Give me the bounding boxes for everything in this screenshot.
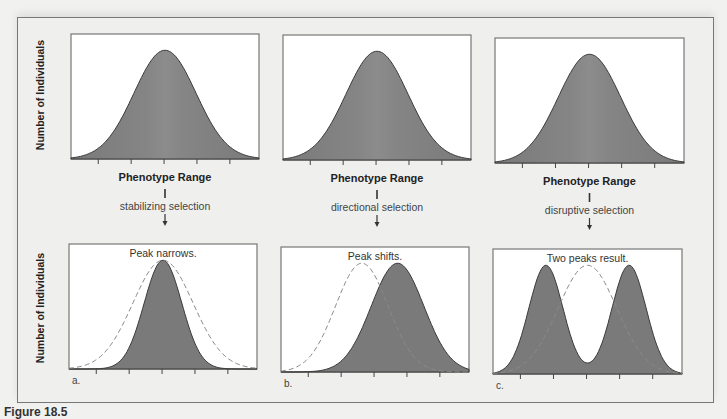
panel-letter: a. [72, 375, 80, 386]
panel-letter: b. [284, 378, 292, 389]
figure-caption: Figure 18.5 [4, 405, 67, 419]
arrow-down-icon [163, 221, 168, 226]
selection-type-label: directional selection [331, 201, 423, 213]
result-annotation: Peak shifts. [348, 250, 402, 262]
result-annotation: Peak narrows. [129, 247, 196, 259]
x-axis-label: Phenotype Range [331, 172, 424, 184]
x-axis-label: Phenotype Range [543, 175, 636, 187]
selection-type-label: disruptive selection [545, 204, 634, 216]
result-annotation: Two peaks result. [547, 252, 629, 264]
selection-type-label: stabilizing selection [120, 200, 211, 212]
panel-letter: c. [496, 380, 504, 391]
arrow-down-icon [587, 225, 592, 230]
x-axis-label: Phenotype Range [119, 171, 212, 183]
arrow-down-icon [375, 222, 380, 227]
